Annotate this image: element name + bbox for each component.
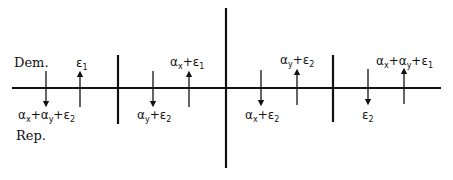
panel4-up-label: αx+αy+ε1 <box>376 55 433 70</box>
panel2-up-label: αx+ε1 <box>170 56 204 71</box>
payoff-diagram: Dem. Rep. αx+αy+ε2 ε1 αy+ε2 αx+ε1 αx+ε2 … <box>0 0 453 180</box>
panel3-up-label: αy+ε2 <box>280 54 314 69</box>
panel4-down-label: ε2 <box>362 109 374 124</box>
diagram-lines <box>0 0 453 180</box>
panel1-up-label: ε1 <box>76 57 88 72</box>
dem-label: Dem. <box>14 56 49 69</box>
panel1-down-label: αx+αy+ε2 <box>18 109 75 124</box>
panel3-down-label: αx+ε2 <box>245 109 279 124</box>
panel2-down-label: αy+ε2 <box>137 109 171 124</box>
rep-label: Rep. <box>16 129 46 142</box>
